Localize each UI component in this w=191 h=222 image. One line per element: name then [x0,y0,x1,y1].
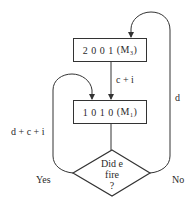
edge-label-d: d [175,93,180,103]
decision-line-2: fire [92,169,132,180]
state-label: (M3) [117,44,138,56]
branch-label-no: No [172,175,184,185]
branch-label-yes: Yes [36,175,51,185]
edge-label-c-plus-i: c + i [116,75,134,85]
edge-label-d-plus-c-plus-i: d + c + i [11,127,45,137]
state-box-m3: 2 0 0 1 (M3) [73,38,147,62]
decision-line-1: Did e [92,158,132,169]
state-box-m1: 1 0 1 0 (M1) [73,100,147,124]
edge-no-loop [131,12,170,173]
decision-line-3: ? [92,180,132,191]
state-label: (M1) [117,106,138,118]
decision-text: Did e fire ? [92,158,132,191]
state-code: 1 0 1 0 [83,107,114,118]
state-code: 2 0 0 1 [83,45,114,56]
